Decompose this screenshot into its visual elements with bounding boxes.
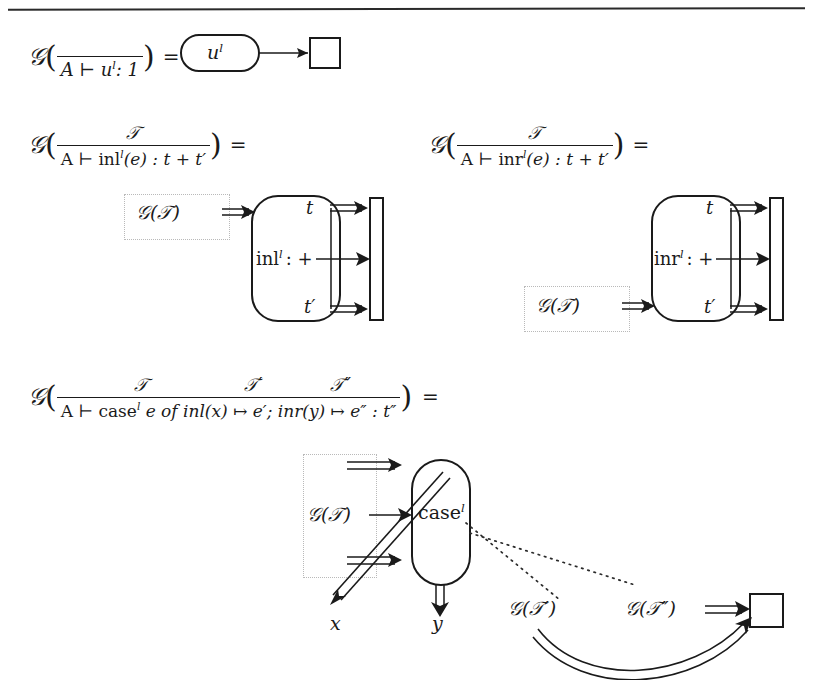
box-label-case-word: case <box>418 501 461 523</box>
functor-arg-tdprime: (𝒯″) <box>639 597 676 619</box>
case-in-low-arrowhead <box>388 553 402 567</box>
out-x-text: x <box>330 612 341 634</box>
target-square-case <box>750 594 783 627</box>
functor-symbol-g: 𝒢 <box>307 503 321 525</box>
functor-symbol-g: 𝒢 <box>508 597 522 619</box>
label-gt-case: 𝒢(𝒯) <box>307 505 351 524</box>
label-gtprime: 𝒢(𝒯′) <box>508 599 556 618</box>
functor-arg-t: (𝒯) <box>321 503 351 525</box>
box-label-case-sup: l <box>461 501 465 515</box>
functor-symbol-g: 𝒢 <box>625 597 639 619</box>
functor-arg-tprime: (𝒯′) <box>522 597 556 619</box>
case-in-top-arrowhead <box>388 458 402 472</box>
dotted-connector-to-gtprime <box>466 523 560 600</box>
diagonal-line-upper <box>333 472 443 595</box>
label-box-case: casel <box>418 503 465 522</box>
out-y-text: y <box>432 612 443 634</box>
curved-arrow-inner <box>533 630 748 680</box>
gtdprime-arrowhead <box>735 601 750 617</box>
dotted-connector-to-gtdprime <box>470 533 635 585</box>
diagram-case <box>0 0 813 680</box>
page-canvas: 𝒢( A ⊢ ul: 1 ) = ul 𝒢( 𝒯 A ⊢ inll(e) : t… <box>0 0 813 680</box>
diagonal-arrowhead-x <box>330 589 346 605</box>
label-out-x: x <box>330 614 341 633</box>
curved-arrow-outer <box>538 623 744 670</box>
label-gtdprime: 𝒢(𝒯″) <box>625 599 676 618</box>
diagonal-line-lower <box>341 478 450 600</box>
label-out-y: y <box>432 614 443 633</box>
